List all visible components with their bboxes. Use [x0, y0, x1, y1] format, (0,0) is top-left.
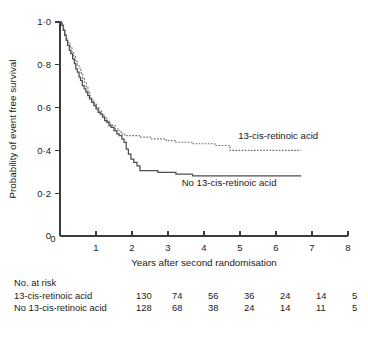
x-tick-label-6: 6 — [273, 242, 278, 253]
y-tick-label-4: 0·8 — [37, 59, 51, 70]
x-tick-label-8: 8 — [345, 242, 350, 253]
risk-count: 130 — [136, 290, 172, 302]
risk-count: 38 — [208, 302, 244, 314]
no-at-risk-table: No. at risk 13-cis-retinoic acid13074563… — [14, 277, 368, 315]
x-axis-title: Years after second randomisation — [131, 257, 277, 268]
risk-count: 24 — [244, 302, 280, 314]
risk-count: 5 — [352, 290, 368, 302]
risk-count: 5 — [352, 302, 368, 314]
x-tick-label-5: 5 — [237, 242, 242, 253]
risk-count: 68 — [172, 302, 208, 314]
risk-count: 11 — [316, 302, 352, 314]
x-tick-label-1: 1 — [93, 242, 98, 253]
curve-no-retinoic-acid — [60, 22, 301, 176]
risk-count: 56 — [208, 290, 244, 302]
risk-row-label: 13-cis-retinoic acid — [14, 290, 136, 302]
curve-label-1: No 13-cis-retinoic acid — [182, 177, 277, 188]
risk-count: 14 — [316, 290, 352, 302]
y-tick-label-3: 0·6 — [37, 102, 51, 113]
x-tick-label-0: 0 — [50, 233, 55, 244]
risk-table-title: No. at risk — [14, 277, 368, 289]
y-axis-title: Probability of event free survival — [7, 60, 18, 199]
risk-count: 74 — [172, 290, 208, 302]
curve-labels-group: 13-cis-retinoic acidNo 13-cis-retinoic a… — [182, 130, 319, 189]
x-tick-label-3: 3 — [165, 242, 170, 253]
kaplan-meier-figure: 00·20·40·60·81·0012345678Years after sec… — [0, 0, 368, 340]
risk-row: No 13-cis-retinoic acid12868382414115 — [14, 302, 368, 314]
risk-count: 14 — [280, 302, 316, 314]
y-tick-label-1: 0·2 — [37, 188, 51, 199]
risk-row: 13-cis-retinoic acid13074563624145 — [14, 290, 368, 302]
x-tick-label-4: 4 — [201, 242, 206, 253]
y-tick-label-5: 1·0 — [37, 16, 51, 27]
risk-table-rows: 13-cis-retinoic acid13074563624145No 13-… — [14, 290, 368, 315]
x-tick-label-2: 2 — [129, 242, 134, 253]
curves-group — [60, 22, 301, 176]
risk-count: 128 — [136, 302, 172, 314]
risk-count: 36 — [244, 290, 280, 302]
curve-label-0: 13-cis-retinoic acid — [238, 130, 318, 141]
risk-row-label: No 13-cis-retinoic acid — [14, 302, 136, 314]
y-tick-label-2: 0·4 — [37, 145, 51, 156]
risk-count: 24 — [280, 290, 316, 302]
x-tick-label-7: 7 — [309, 242, 314, 253]
